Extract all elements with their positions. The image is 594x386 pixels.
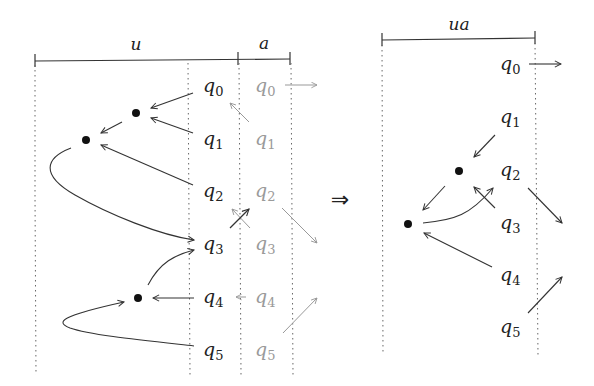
state-q1-u: q1	[203, 127, 223, 152]
transitions-u	[50, 93, 194, 346]
state-q2-u: q2	[203, 179, 223, 204]
state-q3-ua: q3	[500, 211, 520, 236]
state-q5-ua: q5	[500, 315, 520, 340]
dotted-guides-left	[35, 63, 293, 375]
state-q0-a: q0	[255, 74, 275, 99]
state-q5-u: q5	[203, 338, 223, 363]
left-diagram: u a q0 q1 q2 q3 q4 q5 q0 q1 q2 q3 q4 q5	[35, 33, 317, 375]
states-a: q0 q1 q2 q3 q4 q5	[255, 74, 275, 363]
state-q1-ua: q1	[500, 105, 520, 130]
segment-label-ua: ua	[448, 14, 469, 34]
state-q1-a: q1	[255, 127, 275, 152]
merge-dot-right-2	[404, 220, 412, 228]
transitions-ua	[423, 64, 562, 313]
merge-dot-2	[82, 136, 90, 144]
states-u: q0 q1 q2 q3 q4 q5	[203, 74, 223, 363]
states-ua: q0 q1 q2 q3 q4 q5	[500, 52, 520, 340]
merge-dot-3	[134, 294, 142, 302]
state-q3-u: q3	[203, 232, 223, 257]
right-diagram: ua q0 q1 q2 q3 q4 q5	[382, 14, 562, 355]
state-q0-ua: q0	[500, 52, 520, 77]
state-q3-a: q3	[255, 232, 275, 257]
segment-label-u: u	[131, 34, 142, 54]
merge-dot-right-1	[455, 167, 463, 175]
state-q5-a: q5	[255, 338, 275, 363]
dotted-guides-right	[382, 43, 538, 355]
merge-dot-1	[132, 109, 140, 117]
segment-label-a: a	[259, 33, 269, 53]
state-q4-a: q4	[255, 285, 275, 310]
segment-ruler-u-a	[35, 52, 290, 67]
transition-diagram: u a q0 q1 q2 q3 q4 q5 q0 q1 q2 q3 q4 q5	[0, 0, 594, 386]
state-q4-u: q4	[203, 285, 223, 310]
transition-q3-to-q2-dark	[230, 209, 249, 228]
state-q2-a: q2	[255, 179, 275, 204]
implies-symbol: ⇒	[331, 187, 349, 212]
state-q2-ua: q2	[500, 158, 520, 183]
state-q0-u: q0	[203, 74, 223, 99]
state-q4-ua: q4	[500, 263, 520, 288]
